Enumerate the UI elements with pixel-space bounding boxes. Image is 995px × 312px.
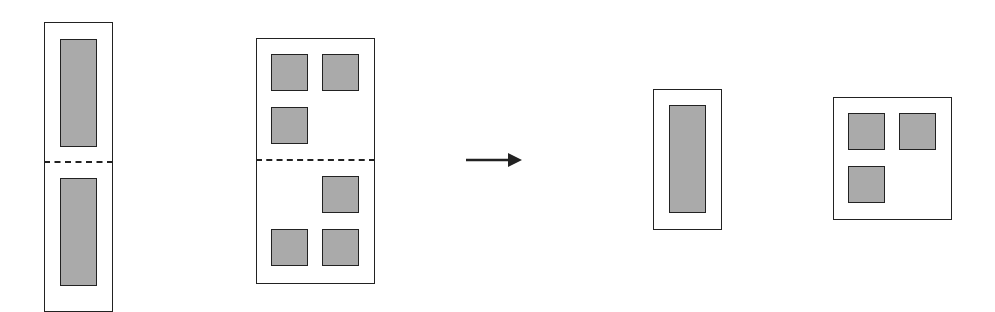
square-block-5: [271, 229, 308, 266]
tall-container-divider: [44, 161, 113, 163]
compact-square-block-3: [848, 166, 885, 203]
square-container-divider: [256, 159, 375, 161]
square-block-2: [322, 54, 359, 91]
tall-block-bottom: [60, 178, 97, 286]
square-block-6: [322, 229, 359, 266]
right-arrow-icon: [464, 150, 526, 170]
compact-square-block-2: [899, 113, 936, 150]
square-block-1: [271, 54, 308, 91]
square-block-4: [322, 176, 359, 213]
compact-square-block-1: [848, 113, 885, 150]
compact-tall-block: [669, 105, 706, 213]
square-block-3: [271, 107, 308, 144]
tall-block-top: [60, 39, 97, 147]
